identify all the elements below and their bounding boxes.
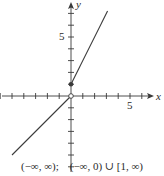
domain-range-caption: (−∞, ∞); (−∞, 0) ∪ [1, ∞)	[0, 160, 164, 173]
y-axis-label: y	[75, 0, 81, 10]
axes	[0, 2, 154, 172]
closed-endpoint-icon	[69, 82, 74, 87]
series-line-2	[71, 11, 108, 84]
open-endpoint-icon	[69, 94, 74, 99]
range-text: (−∞, 0) ∪ [1, ∞)	[70, 160, 143, 172]
graph-plot: x y 5 5	[0, 0, 164, 176]
domain-text: (−∞, ∞);	[21, 160, 59, 172]
series-line-1	[12, 96, 71, 155]
y-tick-label-5: 5	[59, 30, 65, 42]
x-axis-label: x	[155, 90, 161, 102]
x-tick-label-5: 5	[127, 99, 133, 111]
